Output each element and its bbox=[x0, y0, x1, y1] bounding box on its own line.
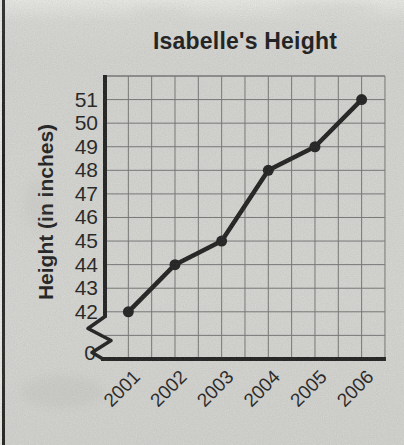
y-tick-label: 49 bbox=[75, 135, 98, 158]
x-tick-label: 2001 bbox=[99, 366, 144, 411]
y-tick-label: 47 bbox=[75, 182, 98, 205]
y-tick-label: 44 bbox=[75, 253, 99, 276]
x-tick-label: 2006 bbox=[333, 366, 378, 411]
y-tick-label: 43 bbox=[75, 276, 98, 299]
data-point-marker bbox=[169, 259, 180, 270]
y-tick-label: 48 bbox=[75, 158, 98, 181]
x-tick-label: 2005 bbox=[286, 366, 331, 411]
scanned-page: Isabelle's Height Height (in inches) 515… bbox=[0, 0, 404, 445]
chart-canvas: 5150494847464544434202001200220032004200… bbox=[0, 0, 404, 445]
data-point-marker bbox=[356, 94, 367, 105]
x-tick-label: 2002 bbox=[146, 366, 191, 411]
data-point-marker bbox=[216, 236, 227, 247]
data-point-marker bbox=[123, 306, 134, 317]
axis-break-zigzag bbox=[88, 317, 111, 359]
y-tick-label: 45 bbox=[75, 229, 98, 252]
y-tick-label: 42 bbox=[75, 300, 98, 323]
y-tick-label: 50 bbox=[75, 111, 98, 134]
y-tick-label: 51 bbox=[75, 88, 98, 111]
x-tick-label: 2003 bbox=[193, 366, 238, 411]
x-tick-label: 2004 bbox=[239, 366, 284, 411]
data-point-marker bbox=[263, 165, 274, 176]
y-tick-label: 46 bbox=[75, 205, 98, 228]
data-point-marker bbox=[309, 141, 320, 152]
